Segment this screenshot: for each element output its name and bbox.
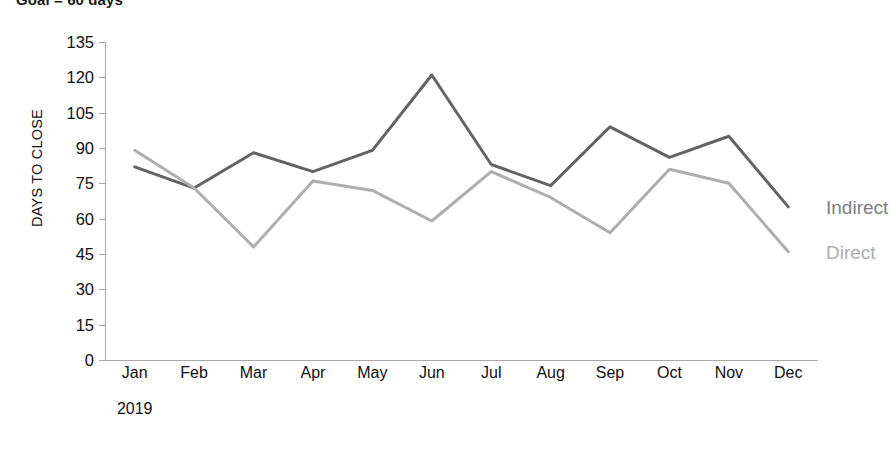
y-tick bbox=[99, 360, 105, 361]
series-line-indirect bbox=[135, 75, 789, 207]
plot-area: 0153045607590105120135 JanFebMarAprMayJu… bbox=[105, 42, 818, 360]
y-tick-label: 15 bbox=[76, 315, 94, 334]
y-tick-label: 105 bbox=[66, 103, 94, 122]
y-tick-label: 45 bbox=[76, 245, 94, 264]
legend-label-direct: Direct bbox=[826, 243, 876, 262]
legend-label-indirect: Indirect bbox=[826, 198, 888, 217]
y-tick-label: 75 bbox=[76, 174, 94, 193]
x-tick-label: Nov bbox=[715, 364, 743, 382]
y-tick-label: 135 bbox=[66, 33, 94, 52]
x-tick-label: Aug bbox=[536, 364, 564, 382]
x-tick-label: Mar bbox=[240, 364, 268, 382]
y-tick-label: 90 bbox=[76, 139, 94, 158]
chart-root: Goal = 60 days DAYS TO CLOSE 01530456075… bbox=[0, 0, 891, 449]
x-tick-label: Oct bbox=[657, 364, 682, 382]
x-tick-label: Dec bbox=[774, 364, 802, 382]
x-tick-label: Jul bbox=[481, 364, 501, 382]
x-tick-label: Jun bbox=[419, 364, 445, 382]
y-tick-label: 30 bbox=[76, 280, 94, 299]
x-tick-label: May bbox=[357, 364, 387, 382]
x-tick-label: Apr bbox=[301, 364, 326, 382]
x-axis-line bbox=[105, 360, 818, 361]
series-lines bbox=[105, 42, 818, 360]
x-tick-label: Jan bbox=[122, 364, 148, 382]
x-axis-year-label: 2019 bbox=[117, 400, 153, 418]
chart-caption: Goal = 60 days bbox=[16, 0, 123, 8]
x-tick-label: Feb bbox=[180, 364, 208, 382]
y-tick-label: 120 bbox=[66, 68, 94, 87]
x-tick-label: Sep bbox=[596, 364, 624, 382]
y-tick-label: 0 bbox=[85, 351, 94, 370]
y-tick-label: 60 bbox=[76, 209, 94, 228]
y-axis-title: DAYS TO CLOSE bbox=[29, 68, 45, 268]
